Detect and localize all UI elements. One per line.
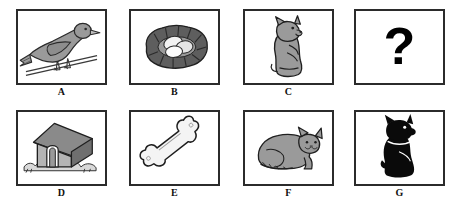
bird-on-branch-icon	[18, 11, 105, 83]
nest-with-eggs-icon	[131, 11, 218, 83]
panel-c[interactable]	[243, 9, 334, 85]
panel-label-g: G	[354, 187, 445, 198]
panel-label-f: F	[243, 187, 334, 198]
panel-label-c: C	[243, 86, 334, 97]
panel-a[interactable]	[16, 9, 107, 85]
question-mark-icon: ?	[356, 11, 443, 83]
panel-f[interactable]	[243, 110, 334, 186]
panel-g[interactable]	[354, 110, 445, 186]
dog-house-icon	[18, 112, 105, 184]
sitting-kitten-icon	[245, 11, 332, 83]
panel-d[interactable]	[16, 110, 107, 186]
black-dog-silhouette-icon	[356, 112, 443, 184]
panel-b[interactable]	[129, 9, 220, 85]
picture-analogy-worksheet: A B	[0, 0, 451, 201]
panel-label-d: D	[16, 187, 107, 198]
lying-cat-icon	[245, 112, 332, 184]
panel-label-b: B	[129, 86, 220, 97]
panel-e[interactable]	[129, 110, 220, 186]
bone-icon	[131, 112, 218, 184]
panel-label-a: A	[16, 86, 107, 97]
panel-question[interactable]: ?	[354, 9, 445, 85]
panel-label-e: E	[129, 187, 220, 198]
